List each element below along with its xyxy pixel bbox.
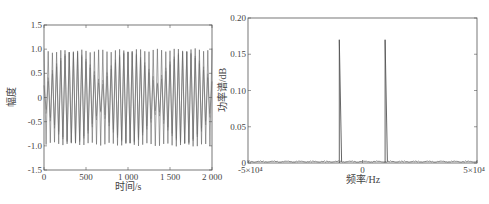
right-y-ticks: 00.050.100.150.20 (230, 13, 477, 168)
y-tick-label: -1.5 (28, 165, 43, 175)
right-plot-frame (248, 18, 477, 163)
y-tick-label: 0.05 (230, 122, 246, 132)
time-domain-chart: -1.5-1.0-0.500.51.01.5 05001 0001 5002 0… (0, 0, 489, 204)
spectrum-peaks (339, 40, 387, 163)
y-tick-label: 0 (38, 93, 43, 103)
time-domain-plot: -1.5-1.0-0.500.51.01.5 05001 0001 5002 0… (5, 20, 223, 192)
x-tick-label: -5×10⁴ (238, 165, 263, 175)
y-tick-label: 1.5 (31, 20, 43, 30)
y-tick-label: 0.20 (230, 13, 246, 23)
y-tick-label: 0.15 (230, 49, 246, 59)
left-plot-frame (44, 25, 212, 170)
left-x-label: 时间/s (115, 180, 142, 192)
y-tick-label: -0.5 (28, 117, 43, 127)
right-y-label: 功率谱/dB (216, 67, 228, 112)
x-tick-label: 5×10⁴ (463, 165, 485, 175)
y-tick-label: 0.5 (31, 68, 43, 78)
y-tick-label: -1.0 (28, 141, 43, 151)
left-y-label: 幅度 (5, 87, 17, 107)
x-tick-label: 2 000 (202, 172, 223, 182)
x-tick-label: 500 (79, 172, 93, 182)
y-tick-label: 0.10 (230, 86, 246, 96)
x-tick-label: 1 500 (160, 172, 181, 182)
right-x-label: 频率/Hz (346, 173, 381, 185)
y-tick-label: 1.0 (31, 44, 43, 54)
x-tick-label: 0 (42, 172, 47, 182)
signal-waveform (44, 48, 212, 146)
power-spectrum-plot: 00.050.100.150.20 -5×10⁴05×10⁴ 功率谱/dB 频率… (216, 13, 485, 185)
